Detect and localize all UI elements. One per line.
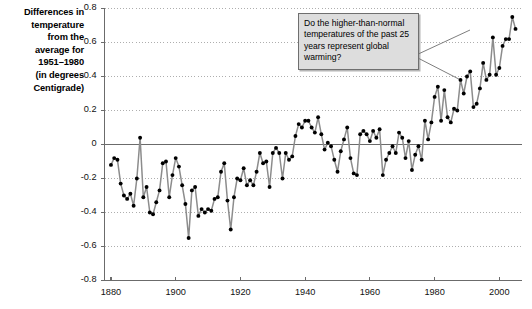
y-tick-label: 0.8: [67, 2, 97, 12]
y-tick-label: 0.4: [67, 70, 97, 80]
plot-canvas: [0, 0, 532, 309]
x-tick-label: 1940: [285, 287, 325, 297]
x-tick-label: 1980: [415, 287, 455, 297]
callout-pointer-line: [414, 30, 470, 80]
x-tick-label: 1880: [91, 287, 131, 297]
global-temperature-chart: Differences in temperature from the aver…: [0, 0, 532, 309]
x-tick-label: 1900: [156, 287, 196, 297]
x-tick-label: 1920: [220, 287, 260, 297]
y-tick-label: -0.4: [67, 206, 97, 216]
y-tick-label: 0.6: [67, 36, 97, 46]
y-tick-label: -0.2: [67, 172, 97, 182]
x-tick-label: 2000: [479, 287, 519, 297]
callout-text: Do the higher-than-normal temperatures o…: [304, 18, 413, 64]
y-tick-label: -0.6: [67, 240, 97, 250]
y-tick-label: -0.8: [67, 274, 97, 284]
x-tick-label: 1960: [350, 287, 390, 297]
y-tick-label: 0: [67, 138, 97, 148]
callout-annotation: Do the higher-than-normal temperatures o…: [298, 13, 419, 70]
y-tick-label: 0.2: [67, 104, 97, 114]
